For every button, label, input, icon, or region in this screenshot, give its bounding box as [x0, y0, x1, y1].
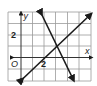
origin-label: O	[11, 59, 18, 69]
x-tick-label: 2	[41, 59, 46, 69]
grid	[8, 12, 91, 81]
x-axis-label: x	[84, 46, 90, 56]
y-axis-label: y	[23, 11, 29, 21]
coordinate-graph: y x O 2 2	[0, 0, 97, 86]
y-tick-label: 2	[11, 30, 16, 40]
